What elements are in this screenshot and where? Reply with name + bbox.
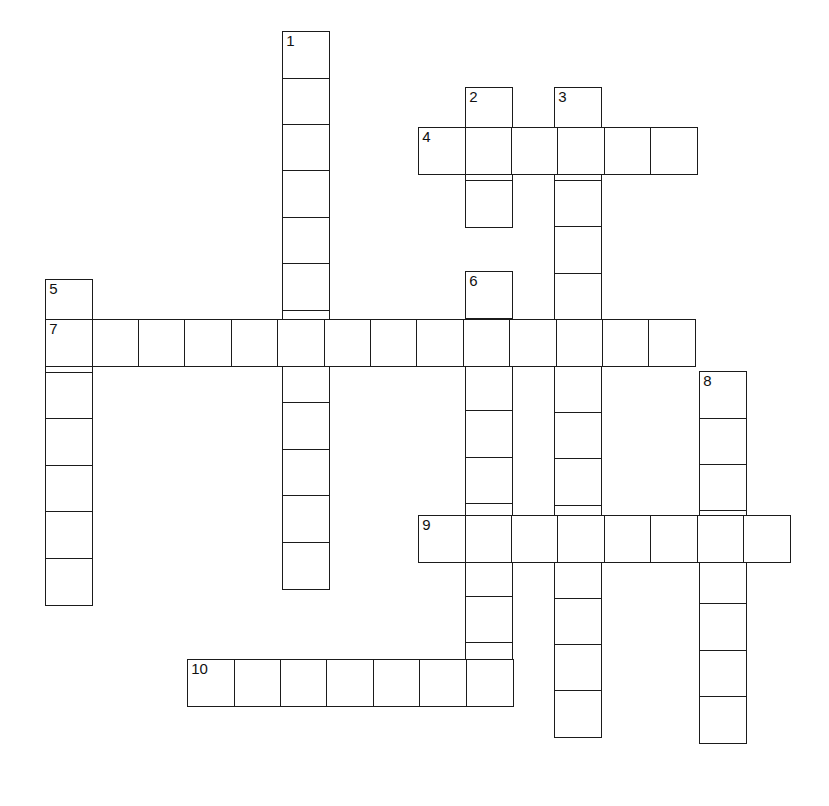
- entry-1-down: 1: [283, 32, 329, 589]
- clue-number: 3: [558, 89, 566, 105]
- cell[interactable]: [554, 366, 602, 414]
- cell[interactable]: 9: [418, 515, 466, 563]
- cell[interactable]: [282, 170, 330, 218]
- cell[interactable]: [650, 127, 698, 175]
- cell[interactable]: [554, 690, 602, 738]
- cell[interactable]: [45, 511, 93, 559]
- cell[interactable]: [554, 226, 602, 274]
- cell[interactable]: [465, 364, 513, 412]
- cell[interactable]: [602, 319, 650, 367]
- entry-3-down: 3: [555, 88, 601, 738]
- cell[interactable]: 1: [282, 31, 330, 79]
- cell[interactable]: [45, 465, 93, 513]
- cell[interactable]: [231, 319, 279, 367]
- cell[interactable]: [557, 127, 605, 175]
- cell[interactable]: [554, 458, 602, 506]
- cell[interactable]: [554, 273, 602, 321]
- cell[interactable]: [554, 644, 602, 692]
- cell[interactable]: [648, 319, 696, 367]
- cell[interactable]: [282, 78, 330, 126]
- cell[interactable]: [282, 542, 330, 590]
- clue-number: 5: [49, 281, 57, 297]
- cell[interactable]: 10: [187, 659, 235, 707]
- cell[interactable]: [554, 598, 602, 646]
- cell[interactable]: [604, 515, 652, 563]
- clue-number: 10: [191, 661, 208, 677]
- clue-number: 6: [469, 273, 477, 289]
- cell[interactable]: [604, 127, 652, 175]
- cell[interactable]: [282, 449, 330, 497]
- cell[interactable]: [465, 596, 513, 644]
- cell[interactable]: [45, 418, 93, 466]
- crossword-grid: 12345678910: [0, 0, 829, 806]
- clue-number: 7: [49, 321, 57, 337]
- cell[interactable]: [511, 127, 559, 175]
- cell[interactable]: [699, 696, 747, 744]
- entry-9-across: 9: [419, 516, 790, 562]
- cell[interactable]: [466, 659, 514, 707]
- clue-number: 9: [422, 517, 430, 533]
- cell[interactable]: [45, 558, 93, 606]
- cell[interactable]: [511, 515, 559, 563]
- cell[interactable]: [697, 515, 745, 563]
- cell[interactable]: [282, 402, 330, 450]
- cell[interactable]: [277, 319, 325, 367]
- cell[interactable]: [370, 319, 418, 367]
- cell[interactable]: [280, 659, 328, 707]
- cell[interactable]: [463, 319, 511, 367]
- cell[interactable]: [465, 127, 513, 175]
- entry-4-across: 4: [419, 128, 697, 174]
- cell[interactable]: [324, 319, 372, 367]
- clue-number: 4: [422, 129, 430, 145]
- clue-number: 2: [469, 89, 477, 105]
- cell[interactable]: [556, 319, 604, 367]
- cell[interactable]: [234, 659, 282, 707]
- cell[interactable]: [373, 659, 421, 707]
- cell[interactable]: [416, 319, 464, 367]
- entry-10-across: 10: [188, 660, 513, 706]
- cell[interactable]: [282, 263, 330, 311]
- cell[interactable]: [699, 603, 747, 651]
- cell[interactable]: [184, 319, 232, 367]
- cell[interactable]: [699, 650, 747, 698]
- cell[interactable]: 8: [699, 371, 747, 419]
- cell[interactable]: [465, 457, 513, 505]
- cell[interactable]: 4: [418, 127, 466, 175]
- entry-7-across: 7: [46, 320, 696, 366]
- cell[interactable]: [554, 412, 602, 460]
- cell[interactable]: [699, 418, 747, 466]
- cell[interactable]: [326, 659, 374, 707]
- cell[interactable]: [699, 557, 747, 605]
- clue-number: 1: [286, 33, 294, 49]
- cell[interactable]: [509, 319, 557, 367]
- cell[interactable]: [465, 180, 513, 228]
- cell[interactable]: [282, 217, 330, 265]
- cell[interactable]: [743, 515, 791, 563]
- cell[interactable]: 6: [465, 271, 513, 319]
- cell[interactable]: [554, 180, 602, 228]
- cell[interactable]: [92, 319, 140, 367]
- cell[interactable]: [465, 515, 513, 563]
- cell[interactable]: [699, 464, 747, 512]
- clue-number: 8: [703, 373, 711, 389]
- cell[interactable]: [557, 515, 605, 563]
- cell[interactable]: [282, 495, 330, 543]
- cell[interactable]: 7: [45, 319, 93, 367]
- cell[interactable]: [650, 515, 698, 563]
- cell[interactable]: [282, 124, 330, 172]
- cell[interactable]: [419, 659, 467, 707]
- cell[interactable]: [45, 372, 93, 420]
- cell[interactable]: [465, 410, 513, 458]
- cell[interactable]: [138, 319, 186, 367]
